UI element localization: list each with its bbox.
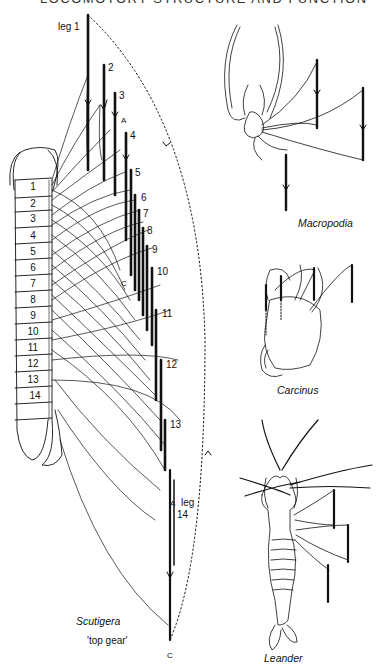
carcinus-caption: Carcinus [277,385,318,396]
leander-caption: Leander [264,653,303,664]
segment-1: 1 [18,182,48,192]
scutigera-gear-caption: 'top gear' [87,636,128,646]
marker-a-top: A [121,117,126,125]
segment-10: 10 [18,327,48,337]
leg-8-label: 8 [147,226,153,236]
segment-11: 11 [18,343,48,353]
leg-4-label: 4 [130,131,136,141]
marker-c-mid: C [121,280,127,288]
segment-3: 3 [18,214,48,224]
marker-a-bottom: A [170,500,175,508]
leander-legs [328,490,348,602]
leg-9-label: 9 [152,245,158,255]
scutigera-body [10,148,62,466]
segment-6: 6 [18,263,48,273]
leg-7-label: 7 [143,209,149,219]
leg-13-label: 13 [170,420,181,430]
segment-8: 8 [18,295,48,305]
segment-12: 12 [18,359,48,369]
diagram-canvas [0,0,376,666]
leg-6-label: 6 [141,193,147,203]
scutigera-caption: Scutigera [76,616,120,627]
leg-3-label: 3 [119,91,125,101]
marker-c-bottom: C [167,652,173,660]
macropodia-legs [286,60,363,210]
leg-2-label: 2 [108,63,114,73]
segment-5: 5 [18,247,48,257]
segment-13: 13 [18,375,48,385]
segment-14: 14 [20,391,50,401]
leg-5-label: 5 [135,168,141,178]
macropodia-drawing [225,25,363,160]
scutigera-legs [88,15,174,640]
leg-11-label: 11 [162,309,172,319]
carcinus-legs [266,265,352,310]
leg-12-label: 12 [166,360,177,370]
segment-2: 2 [18,199,48,209]
carcinus-drawing [261,265,352,377]
leg-14-number: 14 [177,510,188,520]
segment-9: 9 [18,311,48,321]
leander-drawing [240,420,372,650]
leg-1-label: leg 1 [58,22,80,32]
macropodia-caption: Macropodia [298,218,353,229]
segment-4: 4 [18,231,48,241]
segment-7: 7 [18,279,48,289]
leg-14-label: leg [181,498,194,508]
leg-10-label: 10 [157,267,168,277]
